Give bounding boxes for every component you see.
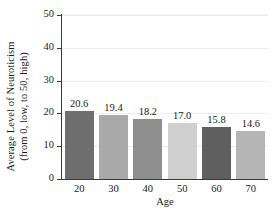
gridline: [62, 81, 268, 82]
bar: [236, 131, 265, 179]
gridline: [62, 48, 268, 49]
bar: [65, 111, 94, 179]
bar: [168, 123, 197, 179]
y-axis-tick-label: 20: [14, 106, 54, 117]
bar-chart: Average Level of Neuroticism (from 0, lo…: [0, 0, 275, 213]
y-axis-tick-label: 30: [14, 74, 54, 85]
bar: [133, 119, 162, 179]
x-axis-line: [61, 179, 268, 180]
bar: [202, 127, 231, 179]
y-axis-tick-label: 40: [14, 41, 54, 52]
plot-area: 20.619.418.217.015.814.6: [62, 15, 268, 179]
x-axis-title: Age: [62, 196, 268, 207]
y-axis-tick: [57, 179, 62, 180]
y-axis-tick-label: 10: [14, 139, 54, 150]
bar: [99, 115, 128, 179]
y-axis-tick-label: 0: [14, 172, 54, 183]
y-axis-tick-label: 50: [14, 8, 54, 19]
gridline: [62, 15, 268, 16]
bar-value-label: 14.6: [225, 118, 275, 129]
x-axis-tick-label: 70: [225, 183, 275, 194]
